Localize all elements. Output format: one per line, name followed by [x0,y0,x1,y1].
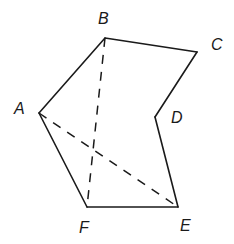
vertex-label-F: F [79,219,90,236]
vertex-label-D: D [171,109,183,126]
vertex-label-B: B [98,10,109,27]
edge-CD [155,52,197,117]
dashed-edge-BF [87,38,105,207]
edge-FA [39,113,87,207]
vertex-label-A: A [13,100,25,117]
geometry-diagram: ABCDEF [0,0,234,244]
vertex-label-E: E [180,217,191,234]
edge-AB [39,38,105,113]
vertex-label-C: C [211,36,223,53]
edge-BC [105,38,197,52]
